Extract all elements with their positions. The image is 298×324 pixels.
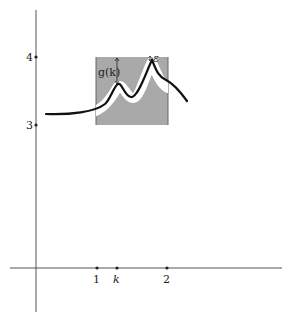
diagram-canvas: 4 3 1 k 2 g(k) ε <box>0 0 298 324</box>
x-tick-label-k: k <box>113 273 120 286</box>
x-tick-2 <box>165 266 168 269</box>
y-tick-label-3: 3 <box>26 119 33 132</box>
x-tick-k <box>115 266 118 269</box>
y-tick-3 <box>34 123 37 126</box>
gap-label: g(k) <box>98 66 120 79</box>
x-tick-label-2: 2 <box>163 273 170 286</box>
y-tick-label-4: 4 <box>26 51 33 64</box>
x-tick-label-1: 1 <box>93 273 100 286</box>
y-tick-4 <box>34 55 37 58</box>
x-tick-1 <box>95 266 98 269</box>
epsilon-label: ε <box>153 52 159 65</box>
